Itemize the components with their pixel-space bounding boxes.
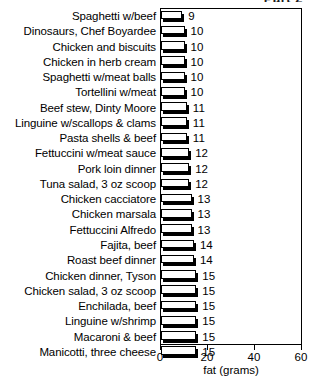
bar-row: Pasta shells & beef11	[0, 131, 311, 146]
bar-value-label: 14	[200, 253, 213, 267]
x-tick-label: 0	[145, 351, 175, 364]
category-label: Linguine w/shrimp	[6, 314, 156, 329]
bar-face	[161, 72, 185, 81]
bar-row: Spaghetti w/beef9	[0, 9, 311, 24]
bar-row: Linguine w/shrimp15	[0, 314, 311, 329]
bar	[161, 330, 198, 345]
bar	[161, 299, 198, 314]
bar-face	[161, 133, 187, 142]
category-label: Pasta shells & beef	[6, 131, 156, 146]
bar	[161, 253, 196, 268]
category-label: Chicken and biscuits	[6, 40, 156, 55]
x-tick-label: 20	[192, 351, 222, 364]
bar-row: Linguine w/scallops & clams11	[0, 116, 311, 131]
bar-value-label: 11	[193, 131, 205, 145]
x-tick	[207, 345, 208, 350]
bar	[161, 192, 194, 207]
bar-row: Enchilada, beef15	[0, 299, 311, 314]
x-axis: 0204060	[160, 344, 302, 345]
bar	[161, 55, 187, 70]
category-label: Spaghetti w/meat balls	[6, 70, 156, 85]
bar-row: Spaghetti w/meat balls10	[0, 70, 311, 85]
x-tick-label: 60	[286, 351, 311, 364]
bar	[161, 223, 194, 238]
bar-face	[161, 41, 185, 50]
category-label: Chicken dinner, Tyson	[6, 269, 156, 284]
bar-value-label: 10	[191, 70, 204, 84]
bar-face	[161, 270, 196, 279]
bar-face	[161, 148, 189, 157]
category-label: Tortellini w/meat	[6, 85, 156, 100]
bar-value-label: 11	[193, 116, 205, 130]
bar	[161, 9, 184, 24]
bar-row: Chicken cacciatore13	[0, 192, 311, 207]
bar-face	[161, 209, 192, 218]
bar-row: Pork loin dinner12	[0, 162, 311, 177]
category-label: Chicken marsala	[6, 207, 156, 222]
category-label: Roast beef dinner	[6, 253, 156, 268]
bar-row: Chicken salad, 3 oz scoop15	[0, 284, 311, 299]
bar-value-label: 10	[191, 24, 204, 38]
bar	[161, 177, 191, 192]
bar-row: Macaroni & beef15	[0, 330, 311, 345]
bar-face	[161, 255, 194, 264]
bar	[161, 131, 189, 146]
bar-value-label: 15	[202, 330, 215, 344]
bar	[161, 116, 189, 131]
category-label: Dinosaurs, Chef Boyardee	[6, 24, 156, 39]
category-label: Fettuccini w/meat sauce	[6, 146, 156, 161]
bar	[161, 24, 187, 39]
bar-face	[161, 117, 187, 126]
bar-face	[161, 11, 182, 20]
category-label: Chicken cacciatore	[6, 192, 156, 207]
bar-value-label: 13	[198, 223, 211, 237]
bar	[161, 40, 187, 55]
bar-face	[161, 102, 187, 111]
bar	[161, 207, 194, 222]
x-tick	[301, 345, 302, 350]
bar	[161, 238, 196, 253]
bar-face	[161, 179, 189, 188]
bar-value-label: 12	[195, 177, 208, 191]
bar	[161, 146, 191, 161]
bar-value-label: 9	[188, 9, 194, 23]
category-label: Chicken salad, 3 oz scoop	[6, 284, 156, 299]
bar-face	[161, 240, 194, 249]
bar-face	[161, 301, 196, 310]
bar-face	[161, 26, 185, 35]
bar-face	[161, 194, 192, 203]
bar-value-label: 15	[202, 299, 215, 313]
bar-row: Chicken dinner, Tyson15	[0, 269, 311, 284]
bar-value-label: 13	[198, 207, 211, 221]
category-label: Macaroni & beef	[6, 330, 156, 345]
category-label: Linguine w/scallops & clams	[6, 116, 156, 131]
category-label: Enchilada, beef	[6, 299, 156, 314]
bar	[161, 269, 198, 284]
bar-row: Tuna salad, 3 oz scoop12	[0, 177, 311, 192]
bar-value-label: 15	[202, 284, 215, 298]
fat-grams-bar-chart: Part 2 Spaghetti w/beef9Dinosaurs, Chef …	[0, 0, 311, 381]
part-title: Part 2	[264, 0, 303, 2]
bar	[161, 162, 191, 177]
bar-face	[161, 56, 185, 65]
bar-row: Roast beef dinner14	[0, 253, 311, 268]
bar-value-label: 15	[202, 269, 215, 283]
bar-value-label: 15	[202, 314, 215, 328]
bar-value-label: 10	[191, 55, 204, 69]
bar-face	[161, 285, 196, 294]
bar-value-label: 11	[193, 101, 205, 115]
bar-value-label: 10	[191, 85, 204, 99]
category-label: Fajita, beef	[6, 238, 156, 253]
category-label: Beef stew, Dinty Moore	[6, 101, 156, 116]
bar-row: Tortellini w/meat10	[0, 85, 311, 100]
category-label: Manicotti, three cheese	[6, 345, 156, 360]
bar-face	[161, 316, 196, 325]
bar-row: Chicken in herb cream10	[0, 55, 311, 70]
bar	[161, 70, 187, 85]
bar-face	[161, 87, 185, 96]
bar-rows-container: Spaghetti w/beef9Dinosaurs, Chef Boyarde…	[0, 9, 311, 345]
bar-value-label: 13	[198, 192, 211, 206]
bar	[161, 85, 187, 100]
x-tick	[160, 345, 161, 350]
bar-row: Dinosaurs, Chef Boyardee10	[0, 24, 311, 39]
